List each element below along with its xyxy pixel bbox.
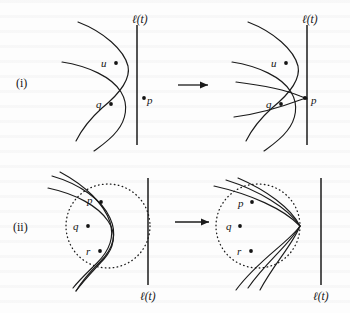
site-label-i-left-q: q: [96, 98, 102, 110]
panel-ii-before: p q r ℓ(t): [48, 172, 156, 303]
parabola-ii-left-p: [60, 172, 112, 288]
sweepline-label-ii-left: ℓ(t): [140, 290, 156, 303]
site-dot-ii-right-p: [250, 200, 254, 204]
parabola-i-right-q: [232, 62, 296, 151]
row-label-i: (i): [16, 76, 27, 90]
site-dot-i-left-p: [142, 96, 146, 100]
sweepline-label-ii-right: ℓ(t): [313, 290, 329, 303]
site-dot-i-left-u: [114, 61, 118, 65]
site-label-i-left-u: u: [101, 57, 107, 69]
circumcircle-ii-left: [66, 184, 150, 268]
parabola-i-left-u: [76, 22, 128, 141]
panel-i-before: u q p ℓ(t): [62, 13, 153, 151]
parabola-ii-right-q: [214, 186, 300, 290]
site-dot-ii-right-r: [249, 249, 253, 253]
row-label-ii: (ii): [13, 220, 28, 234]
site-label-i-left-p: p: [146, 94, 153, 106]
arrow-head-ii: [201, 219, 209, 226]
site-label-i-right-p: p: [310, 94, 317, 106]
site-label-ii-left-q: q: [73, 220, 79, 232]
site-dot-i-left-q: [109, 102, 113, 106]
site-label-i-right-q: q: [266, 98, 272, 110]
figure-canvas: u q p ℓ(t): [0, 0, 350, 313]
transition-arrow-ii: [175, 219, 209, 226]
panel-ii-after: p q r ℓ(t): [214, 178, 329, 303]
parabola-ii-right-r: [238, 178, 300, 290]
figure-root: u q p ℓ(t): [0, 0, 350, 313]
site-label-ii-right-q: q: [226, 220, 232, 232]
site-dot-ii-right-q: [238, 224, 242, 228]
site-label-ii-left-r: r: [86, 245, 91, 257]
site-label-ii-left-p: p: [86, 194, 93, 206]
parabola-i-right-u: [246, 22, 298, 141]
panel-i-after: u q p ℓ(t): [232, 13, 318, 151]
transition-arrow-i: [178, 82, 208, 89]
site-dot-ii-left-p: [99, 200, 103, 204]
site-dot-i-right-q: [279, 102, 283, 106]
parabola-ii-left-r: [52, 176, 114, 291]
parabola-ii-left-q: [48, 188, 113, 291]
site-label-ii-right-p: p: [237, 197, 244, 209]
parabola-i-left-q: [62, 62, 126, 151]
site-label-ii-right-r: r: [237, 245, 242, 257]
site-dot-ii-left-q: [86, 224, 90, 228]
site-dot-ii-left-r: [98, 249, 102, 253]
arrow-head-i: [200, 82, 208, 89]
site-dot-i-right-u: [284, 61, 288, 65]
site-label-i-right-u: u: [271, 57, 277, 69]
sweepline-label-i-left: ℓ(t): [132, 13, 148, 26]
site-dot-i-right-p: [303, 96, 307, 100]
sweepline-label-i-right: ℓ(t): [302, 13, 318, 26]
parabola-i-right-p-upper: [236, 82, 307, 99]
